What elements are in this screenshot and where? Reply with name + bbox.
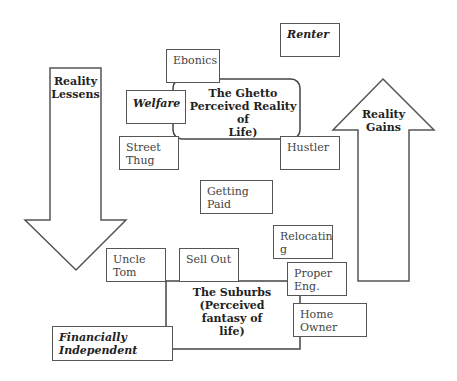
renter-box: Renter — [280, 23, 340, 57]
financially-independent-box: Financially Independent — [52, 326, 173, 361]
street-thug-box: Street Thug — [119, 136, 179, 170]
reality-gains-label: Reality Gains — [358, 108, 409, 134]
hustler-box: Hustler — [280, 136, 340, 170]
getting-paid-box: Getting Paid — [200, 180, 273, 214]
ebonics-box: Ebonics — [166, 49, 220, 83]
suburbs-label: The Suburbs (Perceived fantasy of life) — [176, 286, 288, 338]
home-owner-box: Home Owner — [293, 303, 367, 337]
ghetto-label: The Ghetto Perceived Reality of Life) — [186, 87, 300, 139]
sell-out-box: Sell Out — [179, 248, 239, 282]
reality-lessens-label: Reality Lessens — [50, 75, 101, 101]
proper-eng-box: Proper Eng. — [287, 262, 347, 296]
welfare-box: Welfare — [126, 90, 186, 124]
relocating-box: Relocatin g — [273, 225, 333, 259]
uncle-tom-box: Uncle Tom — [106, 248, 166, 282]
